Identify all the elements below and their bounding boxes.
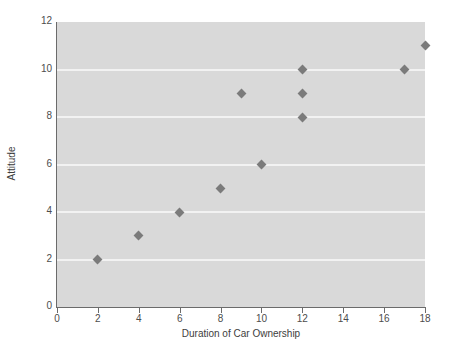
x-axis-tick-label: 2 [78, 313, 118, 324]
data-point [297, 65, 307, 75]
x-axis-tick-label: 8 [201, 313, 241, 324]
y-axis-tick-label: 0 [26, 300, 52, 311]
scatter-chart-figure: 024681012141618 024681012 Duration of Ca… [0, 0, 453, 348]
x-axis-tick-label: 14 [323, 313, 363, 324]
y-axis-line [56, 22, 57, 308]
data-point [400, 65, 410, 75]
x-axis-tick-label: 16 [364, 313, 404, 324]
y-axis-tick-label: 8 [26, 110, 52, 121]
data-point [236, 88, 246, 98]
y-axis-tick-label: 4 [26, 205, 52, 216]
y-axis-tick-label: 10 [26, 63, 52, 74]
x-axis-line [56, 307, 426, 308]
data-point [134, 231, 144, 241]
data-point [216, 183, 226, 193]
data-point [420, 41, 430, 51]
data-point [297, 88, 307, 98]
gridline [57, 211, 425, 213]
gridline [57, 69, 425, 71]
data-point [175, 207, 185, 217]
gridline [57, 164, 425, 166]
data-point [256, 160, 266, 170]
plot-panel [57, 22, 425, 307]
x-axis-tick-label: 6 [160, 313, 200, 324]
y-axis-title: Attitude [6, 124, 17, 204]
x-axis-tick-label: 4 [119, 313, 159, 324]
y-axis-tick-label: 12 [26, 15, 52, 26]
y-axis-tick-label: 6 [26, 158, 52, 169]
data-point [93, 255, 103, 265]
gridline [57, 259, 425, 261]
x-axis-tick-label: 12 [282, 313, 322, 324]
x-axis-tick-label: 10 [241, 313, 281, 324]
y-axis-tick-labels: 024681012 [22, 0, 52, 348]
gridline [57, 116, 425, 118]
x-axis-tick-label: 18 [405, 313, 445, 324]
x-axis-title: Duration of Car Ownership [57, 328, 425, 339]
y-axis-tick-label: 2 [26, 253, 52, 264]
data-point [297, 112, 307, 122]
